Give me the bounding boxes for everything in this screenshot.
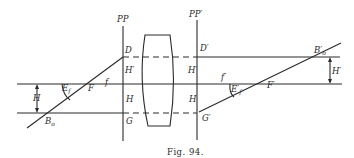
label-g-prime: G′: [202, 113, 211, 123]
label-h-left: H: [125, 94, 134, 104]
label-g: G: [126, 116, 133, 126]
label-d: D: [124, 45, 132, 55]
arrowhead-up-icon: [35, 84, 39, 89]
label-f-small-prime: f′: [220, 72, 226, 82]
optics-diagram: PP PP′ D D′ H′ H′ H H G G′ f f′ F F′ Ef …: [0, 0, 354, 158]
label-pp-prime: PP′: [188, 9, 202, 19]
arrowhead-down-icon: [328, 79, 332, 84]
label-pp: PP: [116, 14, 129, 24]
label-h-prime-left: H′: [124, 65, 134, 75]
label-f-small: f: [104, 77, 110, 87]
label-h-dimension: H: [32, 93, 41, 103]
lens: [142, 35, 173, 126]
label-b-o-prime: B′o: [313, 45, 326, 56]
figure-caption: Fig. 94.: [167, 147, 204, 157]
label-f-big: F: [87, 83, 95, 93]
oblique-ray-left: [27, 57, 123, 128]
label-h-prime-dimension: H′: [331, 66, 341, 76]
arrowhead-down-icon: [35, 108, 39, 113]
label-h-prime-right: H′: [187, 65, 197, 75]
label-h-right: H: [188, 94, 197, 104]
label-b-o: Bo: [44, 116, 55, 127]
label-f-big-prime: F′: [266, 80, 275, 90]
label-e-f: Ef: [61, 83, 72, 95]
label-d-prime: D′: [199, 43, 209, 53]
arrowhead-up-icon: [328, 57, 332, 62]
